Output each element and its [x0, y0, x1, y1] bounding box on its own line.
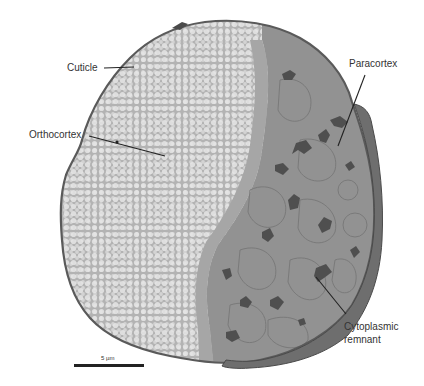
label-cytoplasmic-remnant-line2: remnant	[344, 334, 381, 346]
label-cytoplasmic-remnant-line1: Cytoplasmic	[344, 321, 398, 333]
scale-bar-label: 5 µm	[101, 355, 114, 361]
scale-bar	[74, 364, 144, 367]
label-cuticle: Cuticle	[67, 62, 98, 74]
label-orthocortex: Orthocortex	[29, 129, 81, 141]
label-paracortex: Paracortex	[349, 58, 397, 70]
